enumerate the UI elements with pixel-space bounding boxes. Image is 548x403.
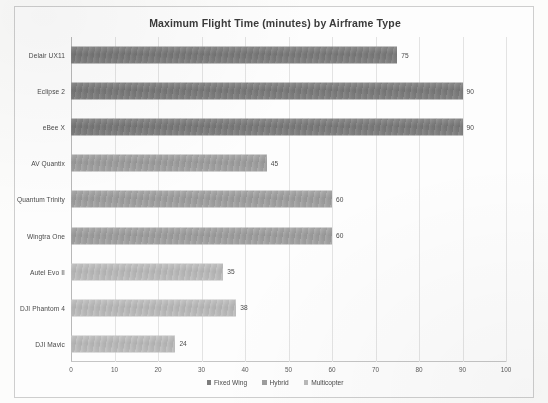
bar-row: AV Quantix45: [71, 145, 506, 181]
category-label: DJI Mavic: [35, 340, 65, 347]
legend-swatch-icon: [262, 380, 267, 385]
bar-value-label: 90: [467, 88, 474, 95]
bar-value-label: 45: [271, 160, 278, 167]
bar-row: eBee X90: [71, 109, 506, 145]
bar[interactable]: 90: [71, 119, 463, 136]
category-label: Quantum Trinity: [17, 196, 65, 203]
bar-value-label: 75: [401, 52, 408, 59]
x-tick-label: 0: [69, 366, 73, 373]
bar-value-label: 35: [227, 268, 234, 275]
bar-value-label: 60: [336, 232, 343, 239]
legend-label: Multicopter: [311, 379, 343, 386]
x-tick-label: 30: [198, 366, 205, 373]
x-tick-label: 70: [372, 366, 379, 373]
bar-row: Quantum Trinity60: [71, 181, 506, 217]
bar-value-label: 60: [336, 196, 343, 203]
scanned-page: Maximum Flight Time (minutes) by Airfram…: [0, 0, 548, 403]
bar-row: DJI Phantom 438: [71, 290, 506, 326]
legend-item[interactable]: Multicopter: [304, 379, 344, 386]
bar[interactable]: 35: [71, 263, 223, 280]
x-tick-label: 10: [111, 366, 118, 373]
bar-row: Eclipse 290: [71, 73, 506, 109]
bar[interactable]: 45: [71, 155, 267, 172]
bar[interactable]: 24: [71, 335, 175, 352]
x-tick-label: 90: [459, 366, 466, 373]
x-tick-label: 50: [285, 366, 292, 373]
chart-title: Maximum Flight Time (minutes) by Airfram…: [15, 17, 535, 29]
category-label: Wingtra One: [27, 232, 65, 239]
category-label: eBee X: [43, 124, 65, 131]
category-label: DJI Phantom 4: [20, 304, 65, 311]
bar[interactable]: 75: [71, 47, 397, 64]
category-label: Autel Evo II: [30, 268, 65, 275]
bar-row: Wingtra One60: [71, 218, 506, 254]
bar[interactable]: 60: [71, 227, 332, 244]
x-tick-label: 80: [415, 366, 422, 373]
bar-value-label: 38: [240, 304, 247, 311]
legend-item[interactable]: Fixed Wing: [207, 379, 247, 386]
bar-row: DJI Mavic24: [71, 326, 506, 362]
x-tick-label: 40: [241, 366, 248, 373]
bar-value-label: 90: [467, 124, 474, 131]
legend-item[interactable]: Hybrid: [262, 379, 289, 386]
chart-legend: Fixed WingHybridMulticopter: [15, 379, 535, 386]
plot-area: Delair UX1175Eclipse 290eBee X90AV Quant…: [71, 37, 506, 362]
x-tick-label: 20: [154, 366, 161, 373]
bar-value-label: 24: [179, 340, 186, 347]
legend-swatch-icon: [304, 380, 309, 385]
category-label: Eclipse 2: [37, 88, 65, 95]
bar[interactable]: 38: [71, 299, 236, 316]
category-label: Delair UX11: [29, 52, 65, 59]
bar[interactable]: 90: [71, 83, 463, 100]
gridline: [506, 37, 507, 362]
legend-label: Fixed Wing: [214, 379, 247, 386]
chart-container: Maximum Flight Time (minutes) by Airfram…: [14, 6, 534, 398]
legend-swatch-icon: [207, 380, 212, 385]
category-label: AV Quantix: [31, 160, 65, 167]
x-tick-label: 60: [328, 366, 335, 373]
x-tick-label: 100: [501, 366, 512, 373]
bar[interactable]: 60: [71, 191, 332, 208]
bar-row: Delair UX1175: [71, 37, 506, 73]
legend-label: Hybrid: [270, 379, 289, 386]
bar-row: Autel Evo II35: [71, 254, 506, 290]
